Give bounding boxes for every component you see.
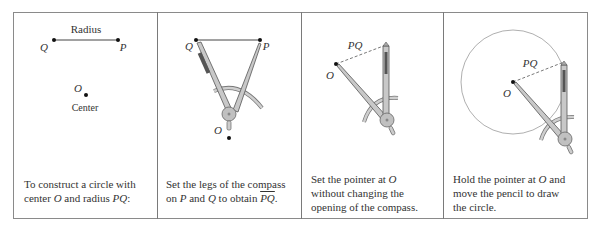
- pq-label: PQ: [522, 57, 538, 69]
- point-o-label: O: [503, 87, 511, 99]
- caption-draw-circle: Hold the pointer at O and move the penci…: [453, 172, 565, 214]
